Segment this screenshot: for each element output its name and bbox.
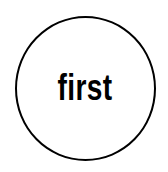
- badge-label: first: [19, 66, 152, 110]
